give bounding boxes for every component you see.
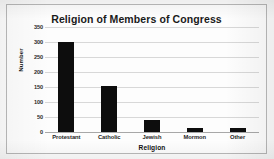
bar — [144, 120, 160, 132]
bar-slot — [173, 27, 216, 132]
x-axis-title: Religion — [45, 144, 259, 151]
y-tick-label: 300 — [17, 39, 43, 45]
bar-slot — [131, 27, 174, 132]
bar — [101, 86, 117, 133]
y-tick-label: 200 — [17, 69, 43, 75]
y-tick-label: 250 — [17, 54, 43, 60]
axis-baseline — [45, 132, 259, 133]
y-tick-label: 50 — [17, 114, 43, 120]
y-tick-label: 0 — [17, 129, 43, 135]
chart-title: Religion of Members of Congress — [7, 13, 266, 25]
bars-layer — [45, 27, 259, 132]
x-tick-label: Other — [230, 134, 245, 140]
bar — [187, 128, 203, 132]
y-tick-label: 350 — [17, 24, 43, 30]
y-axis-tick-labels: 050100150200250300350 — [13, 27, 43, 132]
bar — [58, 42, 74, 132]
x-tick-label: Jewish — [142, 134, 161, 140]
bar-slot — [88, 27, 131, 132]
x-tick-label: Mormon — [184, 134, 207, 140]
chart-screenshot: Religion of Members of Congress Number 0… — [0, 0, 274, 159]
chart-frame: Religion of Members of Congress Number 0… — [6, 4, 267, 154]
x-tick-label: Catholic — [98, 134, 120, 140]
bar — [230, 128, 246, 132]
x-tick-label: Protestant — [52, 134, 80, 140]
bar-slot — [216, 27, 259, 132]
bar-slot — [45, 27, 88, 132]
y-tick-label: 100 — [17, 99, 43, 105]
plot-area — [45, 27, 259, 132]
y-tick-label: 150 — [17, 84, 43, 90]
